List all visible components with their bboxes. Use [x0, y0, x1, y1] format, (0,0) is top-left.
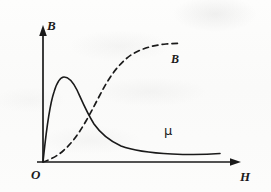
plot-canvas — [0, 0, 271, 192]
curve-mu-solid — [43, 77, 220, 162]
y-axis-label: B — [47, 19, 56, 32]
y-axis-arrow-icon — [39, 25, 47, 36]
origin-label: O — [31, 168, 40, 181]
curve-b-label: B — [171, 53, 179, 65]
x-axis-arrow-icon — [230, 158, 241, 166]
curve-mu-label: μ — [164, 124, 172, 137]
curve-b-dashed — [43, 43, 179, 162]
figure-container: B O H B μ — [0, 0, 271, 192]
x-axis-label: H — [240, 170, 250, 183]
